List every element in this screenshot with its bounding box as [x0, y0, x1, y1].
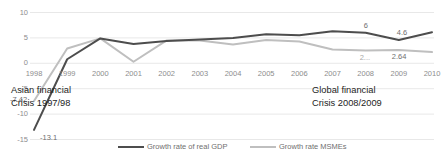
data-label: 4.6 — [397, 29, 407, 37]
x-tick-label: 2008 — [351, 70, 381, 78]
y-tick-label: -10 — [8, 110, 28, 118]
x-tick-label: 2004 — [218, 70, 248, 78]
x-tick-label: 2009 — [384, 70, 414, 78]
x-tick-label: 2001 — [119, 70, 149, 78]
legend-label-gdp: Growth rate of real GDP — [147, 142, 227, 151]
x-tick-label: 2003 — [185, 70, 215, 78]
x-tick-label: 2005 — [251, 70, 281, 78]
annotation-global-line2: Crisis 2008/2009 — [312, 97, 382, 110]
x-tick-label: 2010 — [417, 70, 445, 78]
legend-swatch-gdp — [118, 146, 144, 148]
data-label: 6 — [364, 22, 368, 30]
x-tick-label: 2006 — [284, 70, 314, 78]
x-tick-label: 1998 — [19, 70, 49, 78]
annotation-asian-crisis: Asian financial Crisis 1997/98 — [11, 84, 71, 109]
annotation-asian-line1: Asian financial — [11, 84, 71, 97]
series-line — [34, 31, 432, 130]
x-tick-label: 2002 — [152, 70, 182, 78]
data-label: 2... — [360, 54, 370, 62]
y-tick-label: 0 — [8, 59, 28, 67]
series-lines — [34, 31, 432, 130]
data-label: 2.64 — [392, 53, 407, 61]
annotation-asian-line2: Crisis 1997/98 — [11, 97, 71, 110]
x-tick-label: 2007 — [318, 70, 348, 78]
annotation-global-line1: Global financial — [312, 84, 382, 97]
legend-label-msme: Growth rate MSMEs — [279, 142, 347, 151]
chart-legend: Growth rate of real GDP Growth rate MSME… — [0, 140, 436, 156]
annotation-global-crisis: Global financial Crisis 2008/2009 — [312, 84, 382, 109]
y-tick-label: 5 — [8, 34, 28, 42]
legend-item-msme: Growth rate MSMEs — [250, 142, 347, 151]
x-tick-label: 2000 — [85, 70, 115, 78]
x-tick-label: 1999 — [52, 70, 82, 78]
y-tick-label: 10 — [8, 9, 28, 17]
legend-swatch-msme — [250, 146, 276, 148]
legend-item-gdp: Growth rate of real GDP — [118, 142, 227, 151]
